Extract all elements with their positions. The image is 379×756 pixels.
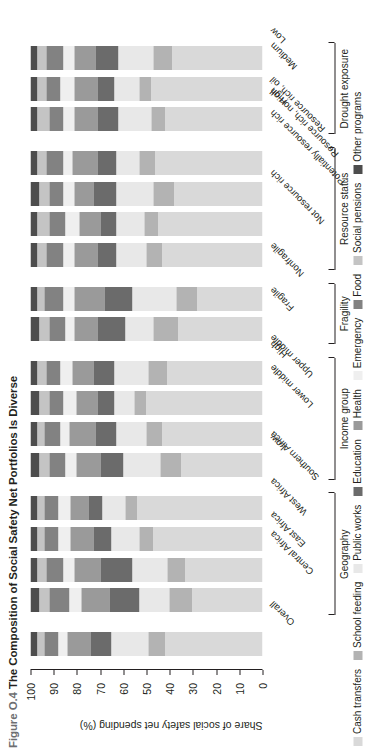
bar-segment <box>30 527 37 551</box>
bar-segment <box>158 212 262 236</box>
legend-label: Emergency <box>352 318 362 369</box>
bar-segment <box>74 77 97 101</box>
bar-segment <box>30 77 37 101</box>
bar-segment <box>49 182 63 206</box>
bar-segment <box>197 287 262 311</box>
bar-segment <box>116 182 153 206</box>
bar-segment <box>148 632 164 656</box>
bar-segment <box>125 317 153 341</box>
y-axis-tick: 50 <box>146 670 147 675</box>
y-axis-tick-label: 60 <box>117 683 129 695</box>
bar-segment <box>153 527 262 551</box>
bar-segment <box>74 317 97 341</box>
bar-segment <box>109 588 139 612</box>
bar-segment <box>151 107 165 131</box>
legend: Cash transfersSchool feedingPublic works… <box>352 6 362 746</box>
bar-segment <box>137 496 262 520</box>
bar-segment <box>169 588 192 612</box>
bar-segment <box>74 287 104 311</box>
legend-item: School feeding <box>352 582 362 660</box>
bar-segment <box>97 243 116 267</box>
bar-segment <box>63 107 75 131</box>
bar-segment <box>72 151 98 175</box>
bar-segment <box>49 107 63 131</box>
category-label: Overall <box>267 599 296 628</box>
group-label: Geography <box>338 530 349 579</box>
bar-segment <box>76 391 97 415</box>
legend-swatch <box>353 371 362 380</box>
bar-segment <box>165 632 262 656</box>
bar-segment <box>46 243 62 267</box>
bar-segment <box>146 422 162 446</box>
bar-segment <box>30 46 37 70</box>
legend-swatch <box>353 256 362 265</box>
bar-segment <box>58 496 70 520</box>
bar-segment <box>97 151 116 175</box>
bar-segment <box>88 496 102 520</box>
bar-segment <box>63 46 75 70</box>
legend-label: Social pensions <box>352 183 362 253</box>
figure-title-text: The Composition of Social Safety Net Por… <box>6 376 18 689</box>
group-bracket-tick <box>328 343 334 344</box>
bar-segment <box>93 527 112 551</box>
bar-segment <box>30 151 37 175</box>
bar-segment <box>30 182 39 206</box>
bar-segment <box>116 422 146 446</box>
bar-segment <box>37 361 46 385</box>
bar-segment <box>65 212 79 236</box>
bar-segment <box>49 588 70 612</box>
bar-segment <box>37 558 46 582</box>
legend-label: Food <box>352 274 362 297</box>
bar-segment <box>134 391 146 415</box>
bar-segment <box>37 496 44 520</box>
bar-segment <box>97 107 118 131</box>
bar-segment <box>37 422 44 446</box>
bar-segment <box>100 558 132 582</box>
bar-segment <box>37 632 44 656</box>
bar-segment <box>116 243 146 267</box>
y-axis-tick-label: 50 <box>140 683 152 695</box>
y-axis-tick: 100 <box>30 670 31 675</box>
y-axis-tick: 80 <box>76 670 77 675</box>
bar-segment <box>174 182 262 206</box>
stacked-bar <box>30 107 262 131</box>
y-axis-tick: 20 <box>216 670 217 675</box>
group-label: Income group <box>338 388 349 449</box>
bar-segment <box>69 422 95 446</box>
group-bracket-tick <box>328 133 334 134</box>
bar-segment <box>39 453 48 477</box>
legend-label: Health <box>352 389 362 418</box>
group-bracket-tick <box>328 614 334 615</box>
legend-label: School feeding <box>352 582 362 648</box>
bar-segment <box>178 317 262 341</box>
bar-segment <box>49 317 65 341</box>
bar-segment <box>167 361 262 385</box>
category-label: Not resource rich <box>267 168 326 227</box>
stacked-bar <box>30 453 262 477</box>
figure-rotated-stage: Figure O.4 The Composition of Social Saf… <box>0 0 379 756</box>
bar-segment <box>30 496 37 520</box>
bar-segment <box>74 243 97 267</box>
bar-segment <box>63 151 72 175</box>
bar-segment <box>81 588 109 612</box>
group-label: Drought exposure <box>338 49 349 129</box>
bar-segment <box>139 77 151 101</box>
stacked-bar <box>30 361 262 385</box>
y-axis-tick: 40 <box>169 670 170 675</box>
legend-item: Food <box>352 274 362 309</box>
group-bracket-rule <box>334 358 335 480</box>
bar-segment <box>30 453 39 477</box>
y-axis-tick-label: 40 <box>163 683 175 695</box>
category-label: Resource rich, oil <box>267 75 327 135</box>
bar-segment <box>74 558 100 582</box>
bar-segment <box>30 243 37 267</box>
bar-segment <box>144 212 158 236</box>
legend-item: Public works <box>352 505 362 573</box>
bar-segment <box>44 422 60 446</box>
bar-segment <box>97 317 125 341</box>
bar-segment <box>37 151 46 175</box>
bar-segment <box>153 182 174 206</box>
bar-segment <box>74 182 93 206</box>
legend-item: Cash transfers <box>352 669 362 746</box>
bar-segment <box>44 287 63 311</box>
